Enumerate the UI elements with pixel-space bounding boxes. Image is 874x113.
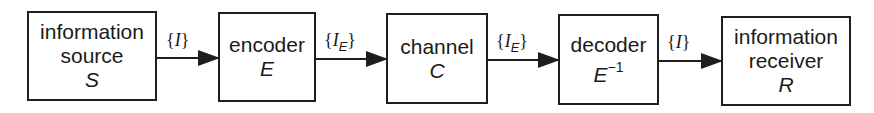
- decoder-block: decoder E−1: [558, 14, 659, 105]
- block-symbol: E: [260, 57, 274, 81]
- block-symbol: C: [429, 59, 444, 83]
- edge-label-source-encoder: {I}: [166, 30, 189, 51]
- arrowhead-icon: [538, 52, 560, 68]
- block-label-line-1: information: [734, 25, 838, 49]
- block-label-line-1: channel: [400, 35, 474, 59]
- arrowhead-icon: [198, 50, 220, 66]
- edge-label-channel-decoder: {IE}: [496, 31, 528, 55]
- block-label-line-1: encoder: [229, 33, 305, 57]
- information-source-block: information source S: [27, 11, 157, 101]
- block-symbol: R: [778, 73, 793, 97]
- arrow-decoder-to-receiver: [659, 60, 721, 62]
- arrow-channel-to-decoder: [488, 59, 558, 61]
- block-symbol: E−1: [594, 57, 624, 87]
- arrow-source-to-encoder: [157, 57, 218, 59]
- edge-label-decoder-receiver: {I}: [667, 32, 690, 53]
- arrow-encoder-to-channel: [316, 58, 386, 60]
- block-label-line-1: information: [40, 20, 144, 44]
- edge-label-encoder-channel: {IE}: [324, 30, 356, 54]
- arrowhead-icon: [701, 53, 723, 69]
- arrowhead-icon: [366, 51, 388, 67]
- information-receiver-block: information receiver R: [721, 16, 851, 106]
- block-label-line-1: decoder: [571, 33, 647, 57]
- block-symbol: S: [85, 68, 99, 92]
- block-label-line-2: source: [60, 44, 123, 68]
- channel-block: channel C: [386, 13, 488, 104]
- encoder-block: encoder E: [218, 12, 316, 102]
- block-label-line-2: receiver: [749, 49, 824, 73]
